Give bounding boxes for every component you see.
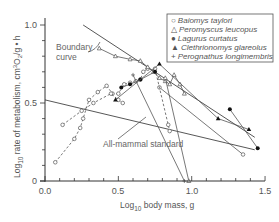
x-tick-label: 0.5	[112, 186, 125, 196]
open-circle-marker	[141, 70, 145, 74]
legend-item-clethrionomys: ▲Clethrionomys glareolus	[171, 43, 267, 52]
chart: 1.0 0.5 0 0.0 0.5 1.0 1.5 Log10 body mas…	[0, 0, 279, 222]
open-circle-marker	[117, 92, 121, 96]
legend: ○Baiomys taylori △Peromyscus leucopus ●L…	[167, 14, 273, 62]
open-circle-marker	[96, 90, 100, 94]
legend-item-baiomys: ○Baiomys taylori	[171, 16, 232, 25]
baiomys-taylori-series-line	[155, 69, 170, 131]
open-circle-marker	[121, 101, 125, 105]
filled-circle-marker	[128, 82, 132, 86]
filled-triangle-marker	[157, 62, 162, 66]
x-tick-label: 1.5	[259, 186, 272, 196]
open-circle-marker	[241, 153, 245, 157]
baiomys-taylori-series-line	[63, 94, 123, 125]
open-circle-marker	[105, 84, 109, 88]
x-axis-title: Log10 body mass, g	[120, 200, 195, 212]
open-circle-marker	[109, 92, 113, 96]
x-tick-label: 1.0	[186, 186, 199, 196]
open-circle-marker	[73, 137, 77, 141]
plus-marker	[131, 73, 135, 77]
open-circle-marker	[53, 160, 57, 164]
legend-item-lagurus: ●Lagurus curtatus	[171, 34, 237, 43]
y-axis-title: Log10 rate of metabolism, cm3O2/g • h	[12, 35, 24, 178]
all-mammal-standard-label: All-mammal standard	[103, 139, 184, 149]
open-circle-marker	[80, 109, 84, 113]
open-circle-marker	[166, 123, 170, 127]
open-circle-marker	[92, 101, 96, 105]
y-tick-label: 1.0	[24, 20, 37, 30]
clethrionomys-glareolus-series-line	[115, 64, 249, 130]
open-circle-marker	[61, 123, 65, 127]
boundary-curve-label: Boundary	[56, 42, 93, 52]
open-circle-marker	[81, 117, 85, 121]
filled-circle-marker	[228, 107, 232, 111]
open-circle-marker	[78, 126, 82, 130]
boundary-curve-label-line2: curve	[56, 52, 77, 62]
open-circle-marker	[168, 129, 172, 133]
filled-circle-marker	[153, 70, 157, 74]
lagurus-curtatus-series-line	[230, 109, 258, 148]
y-tick-label: 0	[32, 176, 37, 186]
x-tick-label: 0.0	[39, 186, 52, 196]
filled-circle-marker	[256, 146, 260, 150]
filled-circle-marker	[119, 85, 123, 89]
open-circle-marker	[87, 98, 91, 102]
legend-item-perognathus: +Perognathus longimembris	[171, 52, 273, 61]
legend-item-peromyscus: △Peromyscus leucopus	[171, 25, 257, 34]
y-tick-label: 0.5	[24, 98, 37, 108]
open-triangle-marker	[97, 46, 101, 50]
